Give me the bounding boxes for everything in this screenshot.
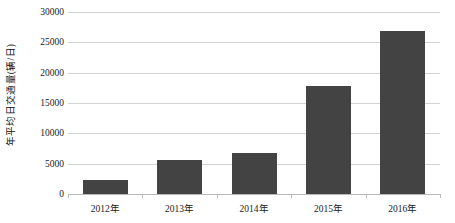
bar-slot: [366, 12, 440, 194]
y-tick-label: 15000: [40, 98, 64, 108]
bar-2013年[interactable]: [157, 160, 202, 194]
plot-area: [68, 12, 440, 194]
bar-2012年[interactable]: [83, 180, 128, 194]
bar-2014年[interactable]: [232, 153, 277, 194]
y-tick-label: 10000: [40, 128, 64, 138]
bar-2015年[interactable]: [306, 86, 351, 194]
x-tick-mark: [440, 194, 441, 198]
bar-2016年[interactable]: [380, 31, 425, 194]
y-tick-label: 30000: [40, 7, 64, 17]
x-tick-label: 2016年: [366, 198, 440, 220]
y-axis-title-label: 年平均日交通量(辆/日): [3, 44, 17, 147]
y-axis-title: 年平均日交通量(辆/日): [0, 0, 20, 190]
y-axis-tick-labels: 050001000015000200002500030000: [18, 12, 68, 194]
bars-layer: [68, 12, 440, 194]
bar-slot: [68, 12, 142, 194]
y-tick-label: 25000: [40, 37, 64, 47]
y-tick-label: 20000: [40, 68, 64, 78]
bar-slot: [291, 12, 365, 194]
bar-chart: 年平均日交通量(辆/日) 050001000015000200002500030…: [0, 0, 455, 223]
x-tick-label: 2012年: [68, 198, 142, 220]
x-tick-label: 2013年: [142, 198, 216, 220]
x-axis-tick-labels: 2012年2013年2014年2015年2016年: [68, 198, 440, 220]
y-tick-label: 0: [59, 189, 64, 199]
y-tick-label: 5000: [45, 159, 64, 169]
x-tick-label: 2014年: [217, 198, 291, 220]
bar-slot: [142, 12, 216, 194]
bar-slot: [217, 12, 291, 194]
x-tick-label: 2015年: [291, 198, 365, 220]
